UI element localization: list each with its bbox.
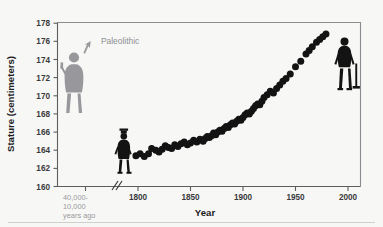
paleolithic-figure [60, 52, 83, 113]
paleolithic-tick-line: 10,000 [63, 202, 86, 211]
data-point [292, 63, 299, 70]
y-tick-label: 170 [36, 92, 50, 101]
paleolithic-annotation-label: Paleolithic [101, 36, 139, 46]
y-tick-label: 176 [36, 37, 50, 46]
paleolithic-tick-label: 40,000- 10,000 years ago [63, 193, 95, 220]
x-axis-ticks [86, 187, 349, 192]
y-axis-tick-labels: 178 176 174 172 170 168 166 164 162 160 [36, 19, 50, 191]
y-tick-label: 166 [36, 128, 50, 137]
modern-figure [334, 38, 360, 91]
axis-break-mark [112, 181, 122, 190]
y-tick-label: 160 [36, 183, 50, 192]
y-tick-label: 162 [36, 164, 50, 173]
paleolithic-tick-line: years ago [63, 211, 95, 220]
x-tick-label: 2000 [339, 193, 358, 202]
x-tick-label: 1950 [286, 193, 305, 202]
nineteenth-century-figure [115, 129, 132, 174]
chart-figure: 178 176 174 172 170 168 166 164 162 160 … [0, 0, 383, 227]
y-axis-title: Stature (centimeters) [5, 56, 16, 152]
y-tick-label: 178 [36, 19, 50, 28]
stature-scatter-chart: 178 176 174 172 170 168 166 164 162 160 … [0, 0, 383, 227]
x-tick-label: 1800 [129, 193, 148, 202]
x-tick-label: 1850 [181, 193, 200, 202]
x-axis-title: Year [195, 207, 216, 218]
x-tick-label: 1900 [234, 193, 253, 202]
y-tick-label: 168 [36, 110, 50, 119]
y-tick-label: 172 [36, 74, 50, 83]
paleolithic-annotation-arrow [84, 41, 91, 54]
data-point [287, 71, 294, 78]
data-point [297, 58, 304, 65]
x-axis-tick-labels: 1800 1850 1900 1950 2000 [129, 193, 358, 202]
data-point [322, 31, 329, 38]
scatter-points [132, 31, 329, 160]
y-axis-ticks [54, 23, 58, 186]
y-tick-label: 174 [36, 56, 50, 65]
paleolithic-tick-line: 40,000- [63, 193, 89, 202]
y-tick-label: 164 [36, 146, 50, 155]
